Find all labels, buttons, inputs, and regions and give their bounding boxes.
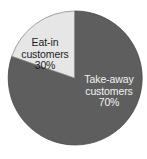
pie-chart-graphic	[0, 0, 147, 159]
pie-chart: Eat-in customers 30% Take-away customers…	[0, 0, 147, 159]
